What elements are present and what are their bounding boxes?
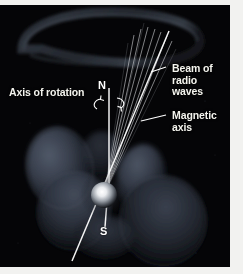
pulsar-scene	[0, 5, 230, 267]
lobe-bottom-center	[74, 215, 134, 259]
label-magnetic-axis: Magnetic axis	[172, 110, 217, 133]
label-axis-of-rotation: Axis of rotation	[9, 87, 84, 99]
diagram-plate: Axis of rotation Beam of radio waves Mag…	[0, 5, 230, 267]
label-pole-south: S	[100, 225, 107, 237]
pulsar-diagram-figure: Axis of rotation Beam of radio waves Mag…	[0, 0, 243, 274]
neutron-star-icon	[91, 182, 117, 208]
label-beam-of-radio-waves: Beam of radio waves	[172, 63, 213, 98]
label-pole-north: N	[98, 79, 106, 91]
